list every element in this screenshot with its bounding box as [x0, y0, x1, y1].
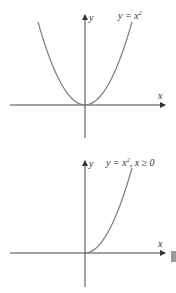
- half-parabola-curve: [85, 168, 132, 253]
- page-marker: [171, 251, 176, 262]
- y-axis-label: y: [88, 158, 94, 169]
- graph-parabola-full: y x y = x2: [10, 10, 165, 138]
- x-axis-label: x: [157, 90, 163, 101]
- y-axis-label: y: [88, 12, 94, 23]
- x-axis-label: x: [157, 238, 163, 249]
- diagram-canvas: y x y = x2 y x y = x2, x ≥ 0: [0, 0, 176, 293]
- equation-label: y = x2: [117, 10, 142, 21]
- equation-label: y = x2, x ≥ 0: [105, 157, 155, 168]
- graph-parabola-half: y x y = x2, x ≥ 0: [10, 157, 176, 287]
